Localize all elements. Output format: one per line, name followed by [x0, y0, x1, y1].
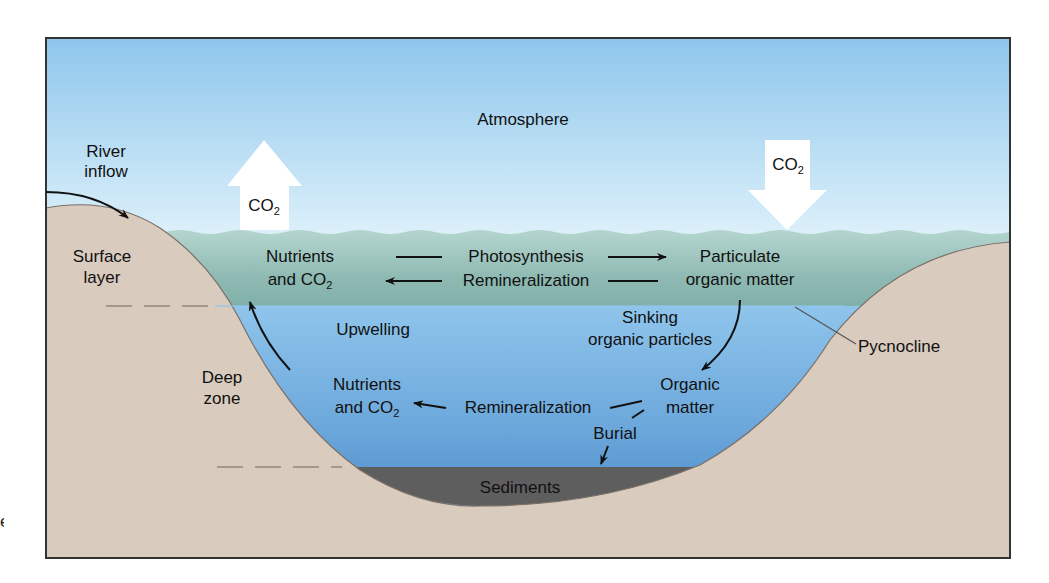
deep-zone-label-line1: Deep — [192, 368, 252, 388]
nutrients-bottom-label-line2: and CO2 — [322, 398, 412, 419]
co2-down-label: CO2 — [766, 155, 810, 176]
nutrients-top-label-line2: and CO2 — [255, 270, 345, 291]
particulate-organic-matter-label-line2: organic matter — [670, 270, 810, 290]
atmosphere-region — [46, 38, 1010, 234]
sinking-label-line2: organic particles — [560, 330, 740, 350]
edge-text-fragment: e — [0, 512, 4, 532]
nutrients-top-label-line1: Nutrients — [255, 247, 345, 267]
river-inflow-label-line2: inflow — [76, 162, 136, 182]
organic-matter-label-line1: Organic — [645, 375, 735, 395]
surface-layer-label-line2: layer — [62, 268, 142, 288]
particulate-organic-matter-label-line1: Particulate — [670, 247, 810, 267]
nutrients-bottom-label-line1: Nutrients — [322, 375, 412, 395]
atmosphere-label: Atmosphere — [463, 110, 583, 130]
pycnocline-label: Pycnocline — [858, 337, 978, 357]
burial-label: Burial — [580, 424, 650, 444]
sediments-label: Sediments — [465, 478, 575, 498]
river-inflow-label-line1: River — [76, 142, 136, 162]
deep-zone-label-line2: zone — [192, 389, 252, 409]
remineralization-top-label: Remineralization — [446, 271, 606, 291]
surface-layer-label-line1: Surface — [62, 247, 142, 267]
remineralization-bottom-label: Remineralization — [448, 398, 608, 418]
organic-matter-label-line2: matter — [645, 398, 735, 418]
upwelling-label: Upwelling — [328, 320, 418, 340]
photosynthesis-label: Photosynthesis — [446, 247, 606, 267]
co2-up-label: CO2 — [244, 196, 284, 217]
sinking-label-line1: Sinking — [560, 308, 740, 328]
